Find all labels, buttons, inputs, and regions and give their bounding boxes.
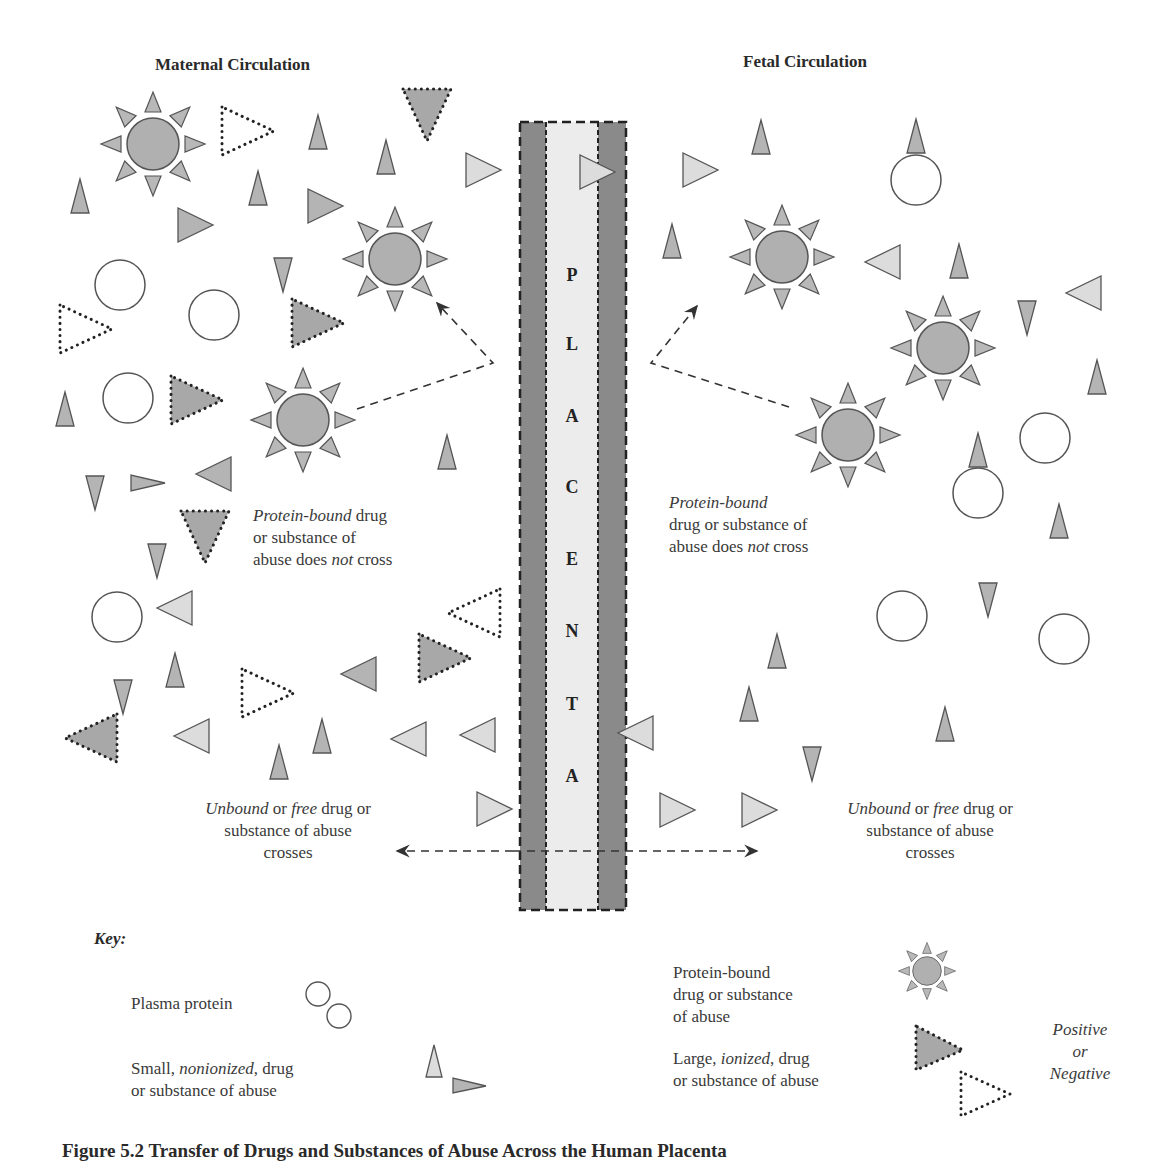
plasma-protein-icon [95,260,145,310]
fetal-unbound-note: Unbound or free drug or substance of abu… [820,798,1040,864]
placenta-letter: C [552,477,592,498]
key-heading: Key: [94,929,126,949]
maternal-protein-bound-note: Protein-bound drug or substance of abuse… [253,505,392,571]
plasma-protein-icon [92,592,142,642]
plasma-protein-icon [103,373,153,423]
placenta-band [520,122,626,910]
placenta-letter: L [552,334,592,355]
key-large-drug-label: Large, ionized, drug or substance of abu… [673,1048,819,1092]
key-small-drug-label: Small, nonionized, drug or substance of … [131,1058,293,1102]
key-symbols [306,931,1010,1116]
plasma-protein-icon [953,468,1003,518]
plasma-protein-icon [891,155,941,205]
protein-bound-drug-icon [79,70,226,217]
plasma-protein-icon [1039,614,1089,664]
key-small-drug-right-icon [453,1078,486,1093]
key-plasma-protein-icon [327,1004,351,1028]
placenta-letter: A [552,766,592,787]
key-ionized-negative-icon [961,1072,1010,1116]
key-small-drug-up-icon [426,1045,442,1077]
protein-bound-drug-icon [869,274,1016,421]
key-protein-bound-label: Protein-bound drug or substance of abuse [673,962,793,1028]
protein-bound-drug-icon [229,346,376,493]
key-protein-bound-icon [887,931,968,1012]
plasma-protein-icon [877,591,927,641]
figure-caption: Figure 5.2 Transfer of Drugs and Substan… [62,1140,727,1162]
fetal-molecules [660,119,1106,827]
maternal-unbound-note: Unbound or free drug or substance of abu… [178,798,398,864]
protein-bound-drug-icon [321,185,468,332]
maternal-molecules [56,70,512,826]
maternal-circulation-heading: Maternal Circulation [155,55,310,75]
plasma-protein-icon [1020,413,1070,463]
placenta-letter: N [552,621,592,642]
placenta-letter: E [552,549,592,570]
placenta-letter: P [552,265,592,286]
key-plasma-protein-label: Plasma protein [131,993,233,1015]
key-ionized-positive-icon [916,1026,963,1070]
key-charge-label: Positive or Negative [1030,1019,1130,1085]
placenta-letter: T [552,694,592,715]
plasma-protein-icon [189,290,239,340]
protein-bound-drug-icon [774,361,921,508]
fetal-protein-bound-note: Protein-bound drug or substance of abuse… [669,492,808,558]
fetal-circulation-heading: Fetal Circulation [743,52,867,72]
key-plasma-protein-icon [306,982,330,1006]
placenta-letter: A [552,406,592,427]
protein-bound-drug-icon [708,183,855,330]
